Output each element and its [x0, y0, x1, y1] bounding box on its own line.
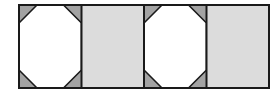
plain-cell — [207, 5, 270, 88]
octagon-cell — [19, 5, 82, 88]
octagon-shape — [144, 5, 207, 88]
plain-square-fill — [207, 5, 270, 88]
octagon-shape — [19, 5, 82, 88]
plain-square-fill — [82, 5, 145, 88]
octagon-cell — [144, 5, 207, 88]
figure-canvas — [0, 0, 279, 108]
tiling-strip-figure — [0, 0, 279, 108]
plain-cell — [82, 5, 145, 88]
